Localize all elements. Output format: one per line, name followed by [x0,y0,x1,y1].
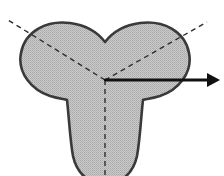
figure-container: Trefoil three-lobed cross-section with s… [0,0,224,176]
center-origin-point [104,79,106,81]
trefoil-diagram-svg [0,0,224,176]
